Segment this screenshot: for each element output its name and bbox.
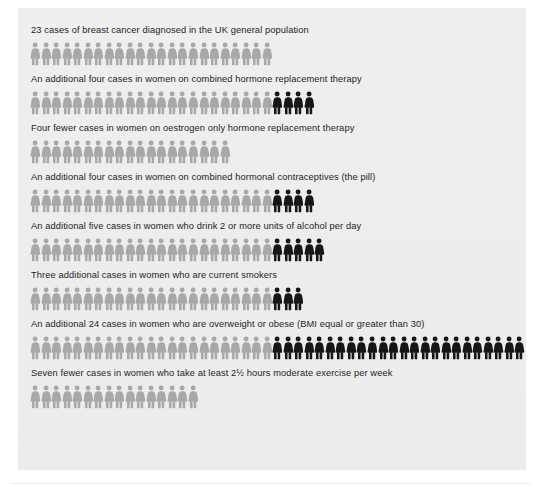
woman-figure-icon-highlighted xyxy=(378,336,388,360)
figure-group xyxy=(30,40,520,66)
footer-divider xyxy=(12,483,532,485)
woman-figure-icon-highlighted xyxy=(293,91,303,115)
woman-figure-icon xyxy=(262,287,272,311)
woman-figure-icon xyxy=(251,336,261,360)
woman-figure-icon xyxy=(220,42,230,66)
woman-figure-icon xyxy=(251,189,261,213)
woman-figure-icon xyxy=(41,238,51,262)
woman-figure-icon xyxy=(230,91,240,115)
woman-figure-icon xyxy=(114,189,124,213)
woman-figure-icon xyxy=(146,42,156,66)
woman-figure-icon xyxy=(167,140,177,164)
woman-figure-icon xyxy=(30,189,40,213)
woman-figure-icon-highlighted xyxy=(356,336,366,360)
woman-figure-icon xyxy=(220,189,230,213)
woman-figure-icon-highlighted xyxy=(472,336,482,360)
woman-figure-icon xyxy=(230,287,240,311)
woman-figure-icon xyxy=(199,140,209,164)
woman-figure-icon xyxy=(125,238,135,262)
woman-figure-icon xyxy=(209,91,219,115)
woman-figure-icon-highlighted xyxy=(314,336,324,360)
woman-figure-icon xyxy=(188,287,198,311)
pictogram-infographic: 23 cases of breast cancer diagnosed in t… xyxy=(0,0,544,493)
woman-figure-icon xyxy=(104,287,114,311)
woman-figure-icon xyxy=(177,287,187,311)
woman-figure-icon-highlighted xyxy=(430,336,440,360)
woman-figure-icon-highlighted xyxy=(420,336,430,360)
woman-figure-icon xyxy=(188,385,198,409)
woman-figure-icon-highlighted xyxy=(272,336,282,360)
woman-figure-icon xyxy=(241,238,251,262)
woman-figure-icon xyxy=(188,238,198,262)
woman-figure-icon xyxy=(135,336,145,360)
figure-group xyxy=(30,236,520,262)
woman-figure-icon-highlighted xyxy=(483,336,493,360)
woman-figure-icon xyxy=(104,238,114,262)
row-caption: 23 cases of breast cancer diagnosed in t… xyxy=(30,18,520,40)
woman-figure-icon xyxy=(72,91,82,115)
woman-figure-icon xyxy=(156,42,166,66)
woman-figure-icon xyxy=(251,91,261,115)
woman-figure-icon xyxy=(93,91,103,115)
woman-figure-icon-highlighted xyxy=(388,336,398,360)
pictogram-row: An additional four cases in women on com… xyxy=(30,165,520,213)
woman-figure-icon xyxy=(262,189,272,213)
figure-group xyxy=(30,285,520,311)
woman-figure-icon xyxy=(83,287,93,311)
woman-figure-icon xyxy=(72,238,82,262)
woman-figure-icon xyxy=(241,287,251,311)
woman-figure-icon xyxy=(125,336,135,360)
pictogram-row: 23 cases of breast cancer diagnosed in t… xyxy=(30,18,520,66)
woman-figure-icon-highlighted xyxy=(272,238,282,262)
woman-figure-icon xyxy=(167,238,177,262)
woman-figure-icon xyxy=(30,336,40,360)
woman-figure-icon xyxy=(262,238,272,262)
woman-figure-icon xyxy=(177,385,187,409)
woman-figure-icon xyxy=(135,140,145,164)
woman-figure-icon xyxy=(83,336,93,360)
woman-figure-icon-highlighted xyxy=(451,336,461,360)
woman-figure-icon xyxy=(125,385,135,409)
woman-figure-icon xyxy=(156,336,166,360)
woman-figure-icon-highlighted xyxy=(293,238,303,262)
woman-figure-icon xyxy=(62,287,72,311)
woman-figure-icon xyxy=(156,91,166,115)
woman-figure-icon xyxy=(241,42,251,66)
woman-figure-icon xyxy=(83,189,93,213)
woman-figure-icon xyxy=(114,140,124,164)
woman-figure-icon-highlighted xyxy=(293,336,303,360)
woman-figure-icon xyxy=(41,189,51,213)
woman-figure-icon xyxy=(51,385,61,409)
woman-figure-icon xyxy=(51,91,61,115)
woman-figure-icon xyxy=(104,189,114,213)
pictogram-row: Four fewer cases in women on oestrogen o… xyxy=(30,116,520,164)
woman-figure-icon xyxy=(188,91,198,115)
woman-figure-icon xyxy=(41,91,51,115)
woman-figure-icon xyxy=(251,42,261,66)
woman-figure-icon xyxy=(30,42,40,66)
woman-figure-icon xyxy=(209,336,219,360)
woman-figure-icon-highlighted xyxy=(304,336,314,360)
woman-figure-icon xyxy=(188,189,198,213)
woman-figure-icon xyxy=(104,385,114,409)
woman-figure-icon xyxy=(167,189,177,213)
woman-figure-icon xyxy=(125,140,135,164)
woman-figure-icon xyxy=(199,336,209,360)
woman-figure-icon xyxy=(104,42,114,66)
woman-figure-icon xyxy=(209,140,219,164)
figure-group xyxy=(30,334,520,360)
woman-figure-icon-highlighted xyxy=(272,287,282,311)
woman-figure-icon-highlighted xyxy=(493,336,503,360)
woman-figure-icon xyxy=(62,385,72,409)
row-caption: An additional four cases in women on com… xyxy=(30,67,520,89)
woman-figure-icon xyxy=(51,42,61,66)
woman-figure-icon-highlighted xyxy=(283,287,293,311)
woman-figure-icon xyxy=(72,336,82,360)
woman-figure-icon-highlighted xyxy=(462,336,472,360)
row-caption: An additional 24 cases in women who are … xyxy=(30,312,520,334)
woman-figure-icon xyxy=(220,238,230,262)
woman-figure-icon xyxy=(241,336,251,360)
woman-figure-icon xyxy=(220,91,230,115)
woman-figure-icon xyxy=(146,287,156,311)
woman-figure-icon xyxy=(83,385,93,409)
